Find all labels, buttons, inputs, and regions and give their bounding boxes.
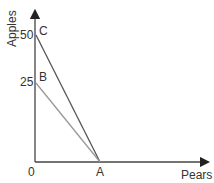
y-tick-25: 25 [20,75,34,89]
origin-label: 0 [28,165,35,179]
y-axis-label: Apples [5,10,19,47]
point-c-label: C [39,24,48,38]
line-ba [36,83,100,162]
y-tick-50: 50 [20,28,34,42]
line-ca [36,35,100,162]
point-b-label: B [39,70,47,84]
ppf-chart: 50 25 C B A 0 Pears Apples [0,0,214,183]
x-axis-label: Pears [181,168,212,182]
point-a-label: A [96,165,104,179]
